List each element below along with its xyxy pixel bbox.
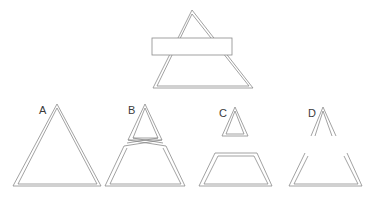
option-c-bottom-piece (199, 153, 272, 186)
option-label-d: D (308, 108, 316, 119)
option-b-shape (105, 104, 185, 186)
overlay-bar (152, 38, 232, 55)
option-label-c: C (219, 108, 227, 119)
option-c-shape (199, 107, 272, 186)
option-a-shape (13, 104, 101, 186)
option-d-bottom-piece (289, 153, 362, 186)
option-d-shape (289, 107, 362, 186)
puzzle-figure-canvas (0, 0, 380, 207)
option-label-a: A (39, 105, 47, 116)
prompt-figure (152, 10, 253, 88)
option-label-b: B (128, 105, 136, 116)
option-b-bottom-piece (105, 146, 185, 186)
option-b-crossing-legs (124, 138, 166, 146)
